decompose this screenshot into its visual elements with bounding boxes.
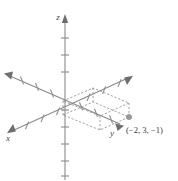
z-axis-label: z [55, 12, 60, 22]
point-coordinate-label: (−2, 3, −1) [126, 125, 163, 135]
y-axis-label: y [109, 128, 114, 138]
x-axis-label: x [5, 133, 10, 143]
label-layer: z x y (−2, 3, −1) [0, 0, 178, 181]
coordinate-figure: z x y (−2, 3, −1) [0, 0, 178, 181]
